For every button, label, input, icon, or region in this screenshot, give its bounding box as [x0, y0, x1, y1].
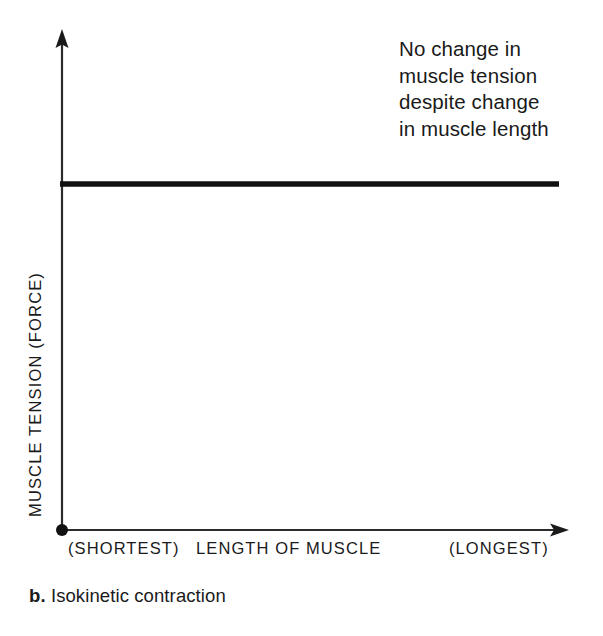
x-axis-title: LENGTH OF MUSCLE: [196, 539, 381, 558]
figure-caption: b. Isokinetic contraction: [29, 585, 226, 607]
figure-caption-index: b.: [29, 585, 46, 606]
y-axis-title: MUSCLE TENSION (FORCE): [26, 217, 48, 517]
x-axis-label-longest: (LONGEST): [449, 539, 549, 558]
figure-caption-text: Isokinetic contraction: [51, 585, 226, 606]
x-axis-label-shortest: (SHORTEST): [68, 539, 180, 558]
annotation-no-change-in-tension: No change in muscle tension despite chan…: [399, 36, 599, 142]
origin-dot: [56, 524, 68, 536]
figure-isokinetic-contraction: No change in muscle tension despite chan…: [0, 0, 603, 636]
